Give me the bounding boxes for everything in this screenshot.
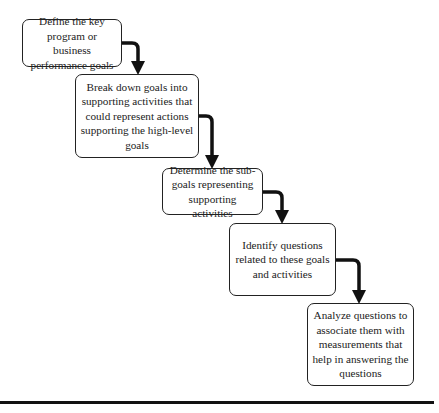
step-5-box: Analyze questions to associate them with… <box>307 303 414 386</box>
bottom-rule <box>0 401 434 404</box>
step-4-text: Identify questions related to these goal… <box>235 238 329 282</box>
step-3-text: Determine the sub- goals representing su… <box>167 163 258 221</box>
step-1-box: Define the key program or business perfo… <box>22 19 122 67</box>
step-4-box: Identify questions related to these goal… <box>229 223 336 296</box>
step-1-text: Define the key program or business perfo… <box>27 14 117 72</box>
arrow-4-to-5 <box>336 260 359 297</box>
arrow-1-to-2 <box>122 43 138 68</box>
step-2-box: Break down goals into supporting activit… <box>75 74 199 158</box>
arrow-2-to-3 <box>199 116 212 162</box>
step-5-text: Analyze questions to associate them with… <box>312 308 408 381</box>
arrow-3-to-4 <box>263 192 282 217</box>
step-3-box: Determine the sub- goals representing su… <box>162 168 263 215</box>
step-2-text: Break down goals into supporting activit… <box>81 80 193 153</box>
